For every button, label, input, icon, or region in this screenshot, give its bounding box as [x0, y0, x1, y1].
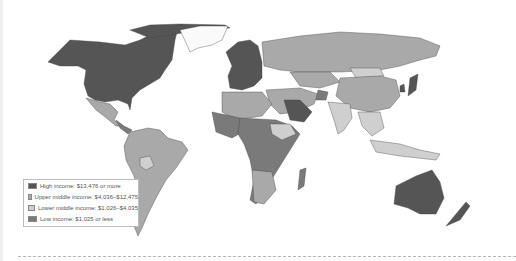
region-madagascar: [298, 168, 306, 190]
legend-swatch-lower-middle: [28, 205, 35, 211]
region-north-america: [48, 28, 178, 110]
region-indonesia: [370, 140, 440, 160]
region-australia: [394, 170, 444, 214]
region-greenland: [180, 26, 228, 52]
region-mexico: [86, 98, 122, 126]
region-southeast-asia: [358, 112, 384, 136]
region-afghanistan: [316, 90, 328, 100]
legend-swatch-high: [28, 183, 37, 189]
region-japan: [408, 74, 418, 96]
legend-swatch-low: [28, 216, 37, 222]
legend-label: High income: $13,476 or more: [40, 183, 121, 189]
region-central-america: [116, 120, 132, 134]
legend: High income: $13,476 or more Upper middl…: [23, 179, 139, 227]
legend-label: Upper middle income: $4,036–$12,475: [35, 194, 138, 200]
legend-label: Lower middle income: $1,026–$4,035: [38, 205, 138, 211]
legend-label: Low income: $1,025 or less: [40, 216, 113, 222]
region-new-zealand: [446, 202, 470, 226]
legend-item-high-income: High income: $13,476 or more: [24, 181, 138, 191]
region-southern-africa: [252, 170, 276, 204]
region-russia: [262, 32, 440, 72]
region-korea: [400, 84, 405, 92]
region-central-asia: [290, 72, 340, 88]
legend-item-low-income: Low income: $1,025 or less: [24, 214, 138, 224]
region-india: [328, 102, 352, 134]
dashed-divider: [18, 256, 516, 257]
legend-item-upper-middle-income: Upper middle income: $4,036–$12,475: [24, 192, 138, 202]
legend-swatch-upper-middle: [28, 194, 32, 200]
region-europe: [226, 40, 262, 90]
legend-item-lower-middle-income: Lower middle income: $1,026–$4,035: [24, 203, 138, 213]
